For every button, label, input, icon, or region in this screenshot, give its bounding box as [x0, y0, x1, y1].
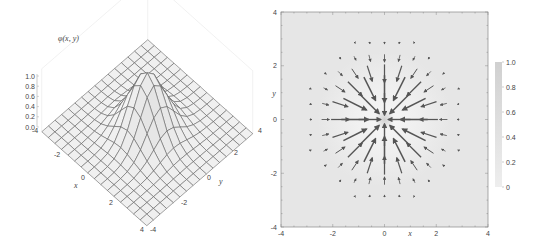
colorbar: 00.20.40.60.81.0: [495, 59, 516, 191]
colorbar-tick-label: 0.4: [506, 134, 516, 141]
colorbar-tick-label: 1.0: [506, 59, 516, 66]
x-tick-label: 2: [434, 230, 438, 237]
colorbar-tick-label: 0.6: [506, 109, 516, 116]
y-tick-label: -4: [271, 224, 277, 231]
x-tick-label: -2: [330, 230, 336, 237]
y-tick-label: 0: [273, 116, 277, 123]
x-axis-label: x: [407, 229, 412, 238]
y-tick-label: 4: [273, 9, 277, 16]
y-tick-label: -2: [271, 170, 277, 177]
x-tick-label: 0: [383, 230, 387, 237]
colorbar-tick-label: 0.2: [506, 159, 516, 166]
x-tick-label: -4: [278, 230, 284, 237]
y-tick-label: 2: [273, 62, 277, 69]
colorbar-tick-label: 0.8: [506, 84, 516, 91]
vector-field-plot: -4-2024-4-2024xy00.20.40.60.81.0: [0, 0, 537, 251]
y-axis-label: y: [271, 89, 276, 98]
density-background: [281, 12, 488, 227]
x-tick-label: 4: [486, 230, 490, 237]
colorbar-tick-label: 0: [506, 184, 510, 191]
